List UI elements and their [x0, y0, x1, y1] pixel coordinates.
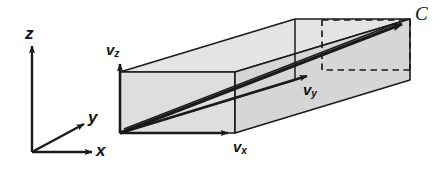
component-label-vz-subscript: z — [114, 48, 119, 59]
component-label-vy-subscript: y — [311, 88, 317, 99]
point-label-c: C — [415, 4, 428, 23]
component-label-vy: vy — [303, 82, 317, 99]
component-label-vx-subscript: x — [241, 145, 247, 156]
axis-y-line — [32, 124, 84, 152]
axis-label-y: y — [88, 109, 97, 126]
component-label-vz: vz — [106, 42, 119, 59]
component-label-vx: vx — [233, 139, 247, 156]
vector-decomposition-figure: z y x vz vy vx C — [0, 0, 440, 175]
diagram-canvas — [0, 0, 440, 175]
axis-label-z: z — [25, 25, 34, 42]
axis-label-x: x — [96, 142, 105, 159]
coordinate-axes — [32, 46, 92, 152]
